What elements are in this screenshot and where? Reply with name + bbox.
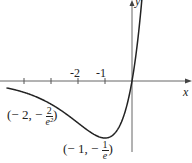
tick-label-neg2: -2 — [70, 67, 80, 79]
plot-area — [0, 0, 192, 163]
annotation-inflection: (− 2, − 2e²) — [7, 106, 57, 127]
y-axis-arrow-icon — [130, 0, 135, 6]
x-axis-label: x — [183, 86, 188, 98]
tick-label-neg1: -1 — [96, 67, 106, 79]
graph-x-exp-x: -2 -1 x y (− 2, − 2e²) (− 1, − 1e) — [0, 0, 192, 163]
annotation-minimum: (− 1, − 1e) — [63, 140, 113, 161]
x-axis-arrow-icon — [185, 79, 192, 84]
y-axis-label: y — [135, 0, 140, 7]
